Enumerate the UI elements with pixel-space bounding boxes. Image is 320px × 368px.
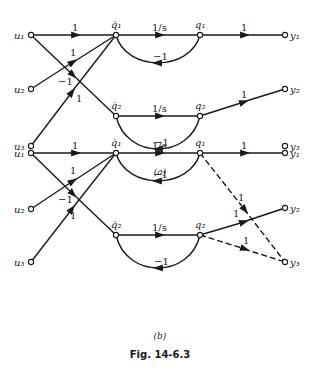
gain-u1-qdot2: −1	[58, 76, 73, 87]
gain-qdot1-q1: 1/s	[152, 22, 167, 33]
gain-qdot2-q2: 1/s	[152, 222, 167, 233]
label-q2: q₂	[195, 219, 205, 230]
node-qdot2	[113, 113, 118, 118]
node-q1	[197, 32, 202, 37]
node-qdot1	[113, 150, 118, 155]
signal-flow-figure: 1 1 −1 1 1/s −1 1 1/s −1 1 u₁ u₂ u₃ q̇₁ …	[0, 0, 320, 368]
label-u1: u₁	[14, 148, 24, 159]
gain-q1-y1: 1	[241, 140, 247, 151]
gain-q2-y2: 1	[233, 208, 239, 219]
edge-u2-qdot1	[31, 35, 116, 89]
label-q2: q₂	[195, 100, 205, 111]
label-y3: y₃	[289, 257, 300, 268]
gain-q2-y3: 1	[243, 235, 249, 246]
gain-u2-qdot1: 1	[70, 165, 76, 176]
node-u3	[28, 143, 33, 148]
caption-b: (b)	[154, 331, 167, 341]
label-y1: y₁	[289, 30, 300, 41]
label-u3: u₃	[14, 257, 24, 268]
gain-q1-qdot1: −1	[153, 169, 168, 180]
node-y1	[282, 150, 287, 155]
label-qdot1: q̇₁	[111, 19, 121, 30]
label-q1: q₁	[195, 137, 205, 148]
label-u1: u₁	[14, 30, 24, 41]
label-u2: u₂	[14, 204, 24, 215]
node-y3	[282, 143, 287, 148]
gain-u3-qdot1: 1	[76, 93, 82, 104]
node-y2	[282, 86, 287, 91]
label-y2: y₂	[289, 203, 300, 214]
gain-u3-qdot1: 1	[70, 210, 76, 221]
gain-u1-qdot1: 1	[72, 140, 78, 151]
node-q2	[197, 232, 202, 237]
gain-q1-qdot1: −1	[153, 51, 168, 62]
gain-q2-qdot2: −1	[154, 256, 169, 267]
node-qdot2	[113, 232, 118, 237]
gain-q2-y2: 1	[241, 89, 247, 100]
label-y2: y₂	[289, 84, 300, 95]
node-u1	[28, 32, 33, 37]
node-u3	[28, 259, 33, 264]
node-u2	[28, 86, 33, 91]
node-y3	[282, 259, 287, 264]
node-q1	[197, 150, 202, 155]
label-q1: q₁	[195, 19, 205, 30]
gain-qdot1-q1: 1/s	[152, 140, 167, 151]
node-u1	[28, 150, 33, 155]
gain-u1-qdot1: 1	[72, 22, 78, 33]
label-y1: y₁	[289, 148, 300, 159]
gain-qdot2-q2: 1/s	[152, 103, 167, 114]
node-qdot1	[113, 32, 118, 37]
gain-q1-y1: 1	[241, 22, 247, 33]
label-qdot2: q̇₂	[111, 100, 121, 111]
gain-u2-qdot1: 1	[70, 47, 76, 58]
edge-u2-qdot1	[31, 153, 116, 209]
label-qdot2: q̇₂	[111, 219, 121, 230]
label-u2: u₂	[14, 84, 24, 95]
edge-q2-y2	[200, 208, 285, 235]
node-u2	[28, 206, 33, 211]
label-qdot1: q̇₁	[111, 137, 121, 148]
gain-u1-qdot2: −1	[58, 194, 73, 205]
node-y2	[282, 205, 287, 210]
figure-title: Fig. 14-6.3	[130, 349, 191, 360]
node-y1	[282, 32, 287, 37]
gain-q1-y3: 1	[238, 192, 244, 203]
node-q2	[197, 113, 202, 118]
